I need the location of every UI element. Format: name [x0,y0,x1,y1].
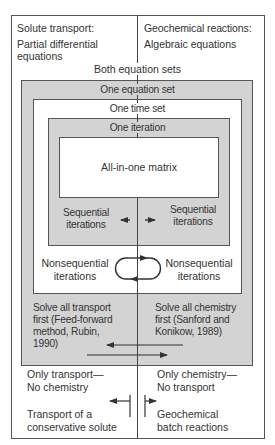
solve-chemistry-first-line3: Konikow, 1989) [155,326,222,339]
time-set-text: One time set [108,103,167,114]
geochemical-reactions-title: Geochemical reactions: [144,22,252,35]
only-chemistry-line2: No transport [157,381,215,394]
iteration-text: One iteration [108,122,168,133]
equation-set-label: One equation set [0,84,275,97]
equation-set-text: One equation set [98,84,176,95]
solve-transport-first-line3: method, Rubin, [33,326,99,339]
batch-reactions-line2: batch reactions [157,421,228,434]
solve-transport-first-line2: first (Feed-forward [33,314,112,327]
time-set-label: One time set [0,103,275,116]
sequential-left-line1: Sequential [56,207,116,220]
iteration-label: One iteration [0,122,275,135]
matrix-label: All-in-one matrix [59,161,219,174]
only-transport-line2: No chemistry [27,381,88,394]
both-equation-sets-text: Both equation sets [92,63,183,75]
algebraic-equations-label: Algebraic equations [144,38,236,51]
both-equation-sets-label: Both equation sets [0,63,275,76]
solve-chemistry-first-line2: first (Sanford and [155,314,230,327]
only-chemistry-line1: Only chemistry— [157,368,237,381]
sequential-right-line1: Sequential [163,204,223,217]
sequential-right-line2: iterations [163,216,223,229]
pde-label-line2: equations [17,50,63,63]
conservative-solute-line1: Transport of a [27,408,92,421]
nonsequential-left-line2: iterations [37,270,113,283]
pde-label-line1: Partial differential [17,38,98,51]
solute-transport-title: Solute transport: [17,22,94,35]
sequential-left-line2: iterations [56,219,116,232]
only-transport-line1: Only transport— [27,368,103,381]
solve-transport-first-line4: 1990) [33,338,58,351]
nonsequential-left-line1: Nonsequential [37,257,113,270]
solve-chemistry-first-line1: Solve all chemistry [155,302,236,315]
conservative-solute-line2: conservative solute [27,421,117,434]
nonsequential-right-line2: iterations [160,270,238,283]
nonsequential-right-line1: Nonsequential [160,257,238,270]
solve-transport-first-line1: Solve all transport [33,302,111,315]
batch-reactions-line1: Geochemical [157,408,218,421]
